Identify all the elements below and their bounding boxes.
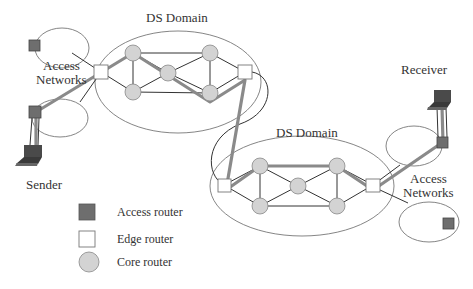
receiver-laptop-icon [427,90,451,110]
access-router-right-bottom [443,218,454,229]
legend-access-router-label: Access router [117,205,183,219]
access-networks-right-label-1: Access [410,171,447,186]
access-router-right-top [437,137,448,148]
access-networks-right-label-2: Networks [403,185,454,200]
ds-domain-2-label: DS Domain [276,125,338,140]
access-router-left-top [29,40,40,51]
legend-edge-router-label: Edge router [117,232,173,246]
sender-laptop-icon [15,145,42,166]
core-router [125,45,141,61]
access-router-left-bottom [29,106,41,118]
edge-router-ds2-right [366,179,380,192]
legend-core-router-swatch [79,252,99,272]
legend: Access router Edge router Core router [79,204,183,272]
legend-access-router-swatch [79,204,95,220]
diffserv-network-diagram: DS Domain DS Domain Access Networks Acce… [0,0,473,289]
legend-core-router-label: Core router [117,255,172,269]
core-router [329,158,345,174]
core-router [252,158,268,174]
access-networks-left-label-1: Access [43,58,80,73]
edge-router-ds2-left [218,179,231,192]
core-router [160,65,176,81]
core-router [202,45,218,61]
sender-label: Sender [26,177,63,192]
edge-router-ds1-left [94,65,108,79]
core-router [202,85,218,101]
core-router [290,178,306,194]
core-router [329,198,345,214]
legend-edge-router-swatch [79,231,95,247]
receiver-label: Receiver [401,62,448,77]
edge-router-ds1-right [238,65,252,79]
core-router [125,84,141,100]
core-router [252,198,268,214]
ds-domain-1-label: DS Domain [146,10,208,25]
diagram-canvas: DS Domain DS Domain Access Networks Acce… [0,0,473,289]
access-networks-left-label-2: Networks [36,72,87,87]
